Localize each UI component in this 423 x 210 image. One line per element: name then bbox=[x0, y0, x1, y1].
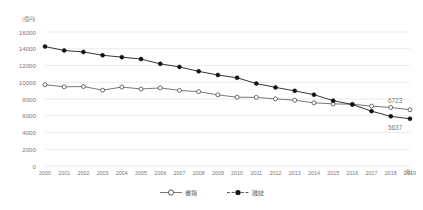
data-point bbox=[293, 98, 297, 102]
data-point bbox=[274, 97, 278, 101]
chart-container: (億円) (年) 1600014000120001000080006000400… bbox=[0, 0, 423, 210]
data-point bbox=[81, 85, 85, 89]
data-point bbox=[81, 50, 85, 54]
data-point bbox=[139, 57, 143, 61]
data-point bbox=[312, 101, 316, 105]
data-point bbox=[408, 108, 412, 112]
data-point bbox=[216, 93, 220, 97]
legend-label-magazines: 雑誌 bbox=[252, 188, 264, 197]
data-point bbox=[235, 76, 239, 80]
data-point bbox=[43, 83, 47, 87]
data-point bbox=[350, 103, 354, 107]
y-axis-tick-label: 8000 bbox=[8, 96, 36, 103]
data-point bbox=[177, 88, 181, 92]
data-point bbox=[139, 87, 143, 91]
data-point bbox=[408, 117, 412, 121]
y-axis-unit-label: (億円) bbox=[22, 15, 35, 22]
y-axis-tick-label: 2000 bbox=[8, 146, 36, 153]
data-point bbox=[120, 55, 124, 59]
data-point bbox=[389, 114, 393, 118]
data-point bbox=[43, 45, 47, 49]
legend-item-books[interactable]: 書籍 bbox=[160, 188, 197, 197]
data-point bbox=[120, 85, 124, 89]
data-point bbox=[197, 69, 201, 73]
open-circle-marker-icon bbox=[160, 188, 182, 197]
y-axis-tick-label: 12000 bbox=[8, 62, 36, 69]
data-point bbox=[274, 85, 278, 89]
data-point bbox=[101, 53, 105, 57]
chart-legend: 書籍 雑誌 bbox=[0, 188, 423, 197]
x-axis-tick-label: 2019 bbox=[399, 170, 421, 176]
data-point bbox=[158, 62, 162, 66]
data-point bbox=[254, 95, 258, 99]
data-point bbox=[389, 105, 393, 109]
data-point bbox=[62, 85, 66, 89]
series-line-magazines bbox=[45, 47, 410, 119]
data-point bbox=[370, 109, 374, 113]
data-point bbox=[62, 48, 66, 52]
data-point bbox=[235, 95, 239, 99]
data-point bbox=[312, 93, 316, 97]
data-point bbox=[293, 89, 297, 93]
data-point bbox=[158, 86, 162, 90]
filled-circle-marker-icon bbox=[227, 188, 249, 197]
y-axis-tick-label: 16000 bbox=[8, 29, 36, 36]
line-chart bbox=[0, 0, 423, 210]
legend-label-books: 書籍 bbox=[185, 188, 197, 197]
y-axis-tick-label: 14000 bbox=[8, 45, 36, 52]
data-point bbox=[370, 104, 374, 108]
books-end-value-label: 6723 bbox=[388, 97, 402, 104]
y-axis-tick-label: 10000 bbox=[8, 79, 36, 86]
y-axis-tick-label: 0 bbox=[8, 163, 36, 170]
data-point bbox=[254, 82, 258, 86]
y-axis-tick-label: 4000 bbox=[8, 129, 36, 136]
data-point bbox=[331, 99, 335, 103]
data-point bbox=[101, 88, 105, 92]
data-point bbox=[177, 65, 181, 69]
data-point bbox=[197, 90, 201, 94]
magazines-end-value-label: 5637 bbox=[388, 124, 402, 131]
y-axis-tick-label: 6000 bbox=[8, 112, 36, 119]
data-point bbox=[216, 73, 220, 77]
legend-item-magazines[interactable]: 雑誌 bbox=[227, 188, 264, 197]
